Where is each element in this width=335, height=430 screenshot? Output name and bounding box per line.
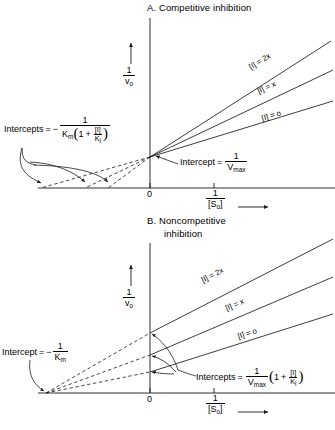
panel-b-km-den: Km xyxy=(53,351,68,362)
panel-a-intercepts-lead: Intercepts xyxy=(4,125,44,134)
panel-a-vmax-leader xyxy=(156,156,178,164)
panel-b-y-num: 1 xyxy=(123,288,135,297)
panel-a-origin-label: 0 xyxy=(147,190,152,199)
panel-b-paren-close: ) xyxy=(298,369,303,384)
panel-a-vmax-equals: = xyxy=(215,158,224,167)
panel-a-y-axis-label: 1 vo xyxy=(122,66,136,87)
panel-b-vmax-num: 1 xyxy=(246,367,268,376)
panel-b-intercepts-formula: Intercepts = 1 Vmax ( 1 + [I] Ki ) xyxy=(196,367,303,388)
panel-a-i-num: [I] xyxy=(94,126,102,134)
panel-a-intercepts-minus: − xyxy=(53,125,58,134)
panel-b-x-den: [So] xyxy=(206,403,225,414)
panel-a-plot xyxy=(0,0,335,215)
panel-b-leader-x xyxy=(152,356,176,372)
panel-a-x-num: 1 xyxy=(206,189,225,198)
panel-a-x-axis-label: 1 [So] xyxy=(205,189,226,210)
panel-a-intercepts-den: Km ( 1 + [I] Ki ) xyxy=(60,125,110,143)
panel-b-km-formula: Intercept = − 1 Km xyxy=(2,342,69,363)
panel-a-intercepts-formula: Intercepts = − 1 Km ( 1 + [I] Ki ) xyxy=(4,116,111,144)
panel-b-line-2x xyxy=(150,239,333,333)
panel-a-vmax-formula: Intercept = 1 Vmax xyxy=(180,152,248,173)
panel-a-vmax-num: 1 xyxy=(225,152,247,161)
panel-a-line-0 xyxy=(150,101,333,157)
panel-b-x-axis-label: 1 [So] xyxy=(205,394,226,415)
panel-b-km-leader xyxy=(30,360,44,391)
panel-competitive-inhibition: A. Competitive inhibition xyxy=(0,0,335,215)
panel-b-km-lead: Intercept xyxy=(2,348,37,357)
panel-b-leader-stem xyxy=(178,370,196,376)
panel-a-vmax-lead: Intercept xyxy=(180,158,215,167)
panel-a-vmax-den: Vmax xyxy=(225,161,247,172)
panel-a-paren-open: ( xyxy=(73,125,78,142)
panel-b-km-num: 1 xyxy=(53,342,68,351)
panel-a-dashed-2x xyxy=(108,157,150,188)
panel-b-vmax-den: Vmax xyxy=(246,376,268,387)
panel-b-plus: + xyxy=(279,373,288,382)
panel-b-km-minus: − xyxy=(46,348,51,357)
panel-a-y-den: vo xyxy=(123,75,135,86)
panel-b-dashed-0 xyxy=(46,372,150,393)
panel-b-y-den: vo xyxy=(123,297,135,308)
panel-b-plot xyxy=(0,215,335,430)
panel-noncompetitive-inhibition: B. Noncompetitive inhibition xyxy=(0,215,335,430)
panel-a-line-x xyxy=(150,70,333,157)
panel-a-x-den: [So] xyxy=(206,198,225,209)
panel-a-ki-den: Ki xyxy=(94,134,102,143)
panel-a-intercepts-num: 1 xyxy=(60,116,110,125)
panel-a-paren-close: ) xyxy=(103,125,108,142)
panel-b-origin-label: 0 xyxy=(147,395,152,404)
panel-b-x-num: 1 xyxy=(206,394,225,403)
panel-b-km-equals: = xyxy=(37,348,46,357)
panel-b-i-num: [I] xyxy=(289,369,297,377)
panel-a-leader-2x xyxy=(34,165,108,182)
panel-b-y-axis-label: 1 vo xyxy=(122,288,136,309)
panel-b-ki-den: Ki xyxy=(289,377,297,386)
panel-a-y-num: 1 xyxy=(123,66,135,75)
panel-b-intercepts-lead: Intercepts xyxy=(196,373,236,382)
panel-b-intercepts-equals: = xyxy=(236,373,245,382)
panel-a-plus: + xyxy=(83,129,92,139)
panel-a-intercepts-equals: = xyxy=(44,125,53,134)
panel-b-paren-open: ( xyxy=(269,369,274,384)
panel-a-km: Km xyxy=(62,129,73,139)
panel-b-leader-0 xyxy=(152,372,174,374)
panel-a-line-2x xyxy=(150,41,331,157)
